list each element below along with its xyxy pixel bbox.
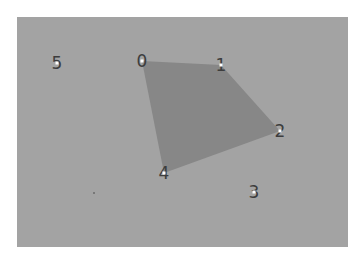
point-marker-icon [253,191,256,194]
point-5: 5 [52,53,63,73]
point-marker-icon [279,130,282,133]
point-2: 2 [275,121,286,141]
stray-dot [93,192,95,194]
point-3: 3 [249,182,260,202]
point-marker-icon [56,62,59,65]
diagram-canvas: 012345 [0,0,363,261]
point-4: 4 [159,163,170,183]
point-0: 0 [137,51,148,71]
point-marker-icon [220,64,223,67]
point-1: 1 [216,55,227,75]
point-marker-icon [163,172,166,175]
point-marker-icon [141,60,144,63]
